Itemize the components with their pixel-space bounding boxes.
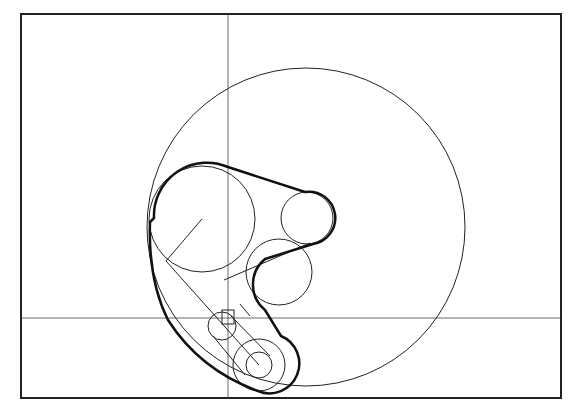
radius-line xyxy=(166,219,202,261)
upper-right-pulley xyxy=(281,192,333,244)
belt-diagram xyxy=(0,0,572,411)
arm-line-upper xyxy=(231,316,270,356)
arm-line-lower xyxy=(213,336,245,375)
tangent-line xyxy=(166,261,259,365)
belt xyxy=(150,163,335,394)
frame xyxy=(21,14,561,398)
short-line xyxy=(240,304,250,316)
